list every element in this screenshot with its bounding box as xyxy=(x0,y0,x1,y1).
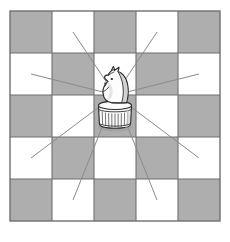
board-square-5-3[interactable] xyxy=(94,179,136,221)
board-square-2-2[interactable] xyxy=(52,53,94,95)
chessboard-diagram xyxy=(0,0,230,242)
knight-eye xyxy=(111,78,114,80)
board-square-1-3[interactable] xyxy=(94,11,136,53)
knight-nostril xyxy=(104,82,106,84)
knight-move-figure xyxy=(0,0,230,242)
figure-page xyxy=(0,0,230,242)
board-square-1-5[interactable] xyxy=(178,11,220,53)
board-square-4-3[interactable] xyxy=(94,137,136,179)
board-square-4-2[interactable] xyxy=(52,137,94,179)
board-square-5-5[interactable] xyxy=(178,179,220,221)
board-square-3-1[interactable] xyxy=(10,95,52,137)
board-square-2-4[interactable] xyxy=(136,53,178,95)
board-square-3-5[interactable] xyxy=(178,95,220,137)
board-square-4-4[interactable] xyxy=(136,137,178,179)
board-square-1-1[interactable] xyxy=(10,11,52,53)
knight-base xyxy=(99,101,132,128)
board-square-5-1[interactable] xyxy=(10,179,52,221)
